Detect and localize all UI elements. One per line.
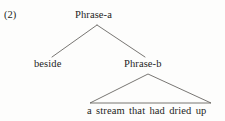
branch-right-to-phrase-b <box>97 25 145 57</box>
branch-left-to-beside <box>52 25 97 57</box>
triangle-shape <box>90 74 211 103</box>
node-label-phrase-a: Phrase-a <box>75 9 112 21</box>
figure-canvas: (2) Phrase-a beside Phrase-b a stream th… <box>0 0 225 121</box>
node-label-phrase-b: Phrase-b <box>124 58 162 70</box>
node-label-beside: beside <box>34 58 61 70</box>
phrase-b-triangle <box>90 74 211 103</box>
node-label-terminal-string: a stream that had dried up <box>87 105 206 117</box>
phrase-a-branches <box>52 25 145 57</box>
